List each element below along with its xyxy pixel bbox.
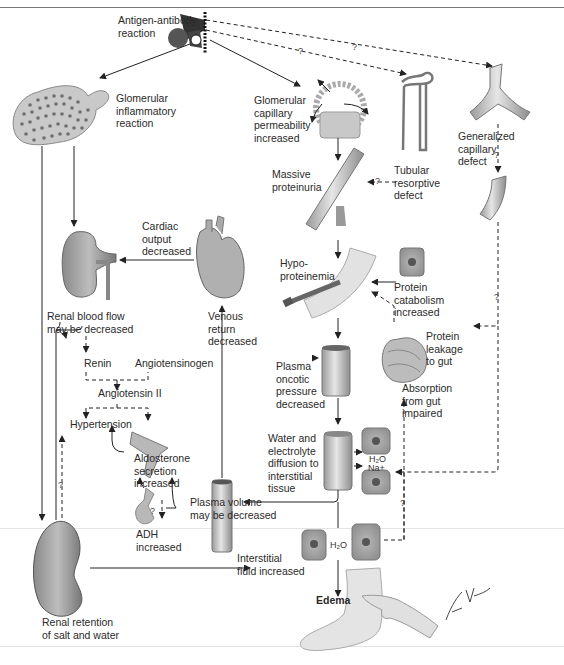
label-venous-return: Venous return decreased	[208, 310, 257, 348]
label-adh: ADH increased	[136, 528, 182, 553]
uncertain-mark: ?	[375, 176, 380, 186]
glomerulus-illustration	[13, 86, 109, 145]
label-protein-catabolism: Protein catabolism increased	[394, 281, 444, 319]
uncertain-mark: ?	[494, 150, 499, 160]
foot-illustration	[300, 568, 382, 651]
vessel-cylinder-illustration	[322, 345, 350, 396]
label-cardiac-output: Cardiac output decreased	[142, 220, 191, 258]
glomerular-capillary-illustration	[312, 80, 368, 138]
kidney-illustration	[33, 521, 81, 616]
uncertain-mark: ?	[58, 480, 63, 490]
uncertain-mark: ?	[298, 46, 303, 56]
label-hypoproteinemia: Hypo- proteinemia	[280, 257, 335, 282]
label-angiotensin-ii: Angiotensin II	[98, 387, 162, 400]
label-plasma-volume: Plasma volume may be decreased	[190, 496, 276, 521]
label-renal-blood-flow: Renal blood flow may be decreased	[47, 310, 133, 335]
brace-connector	[56, 322, 60, 520]
kidney-illustration	[62, 232, 116, 300]
nephron-tubule-illustration	[402, 73, 432, 150]
uncertain-mark: ?	[352, 42, 357, 52]
label-massive-proteinuria: Massive proteinuria	[272, 168, 322, 193]
label-edema: Edema	[316, 594, 350, 607]
label-antigen-antibody: Antigen-antibody reaction	[118, 14, 197, 39]
uncertain-mark: ?	[494, 292, 499, 302]
label-aldosterone: Aldosterone secretion increased	[134, 452, 190, 490]
cell-illustration	[400, 248, 424, 276]
label-hypertension: Hypertension	[70, 418, 132, 431]
label-generalized-capillary: Generalized capillary defect	[458, 130, 515, 168]
label-tubular-defect: Tubular resorptive defect	[394, 164, 440, 202]
label-angiotensinogen: Angiotensinogen	[135, 357, 213, 370]
label-plasma-oncotic: Plasma oncotic pressure decreased	[276, 360, 325, 410]
label-protein-leakage: Protein leakage to gut	[426, 330, 463, 368]
uncertain-mark: ?	[150, 506, 155, 516]
heart-illustration	[197, 216, 245, 298]
intestine-illustration	[382, 338, 427, 383]
label-absorption-gut: Absorption from gut impaired	[402, 382, 452, 420]
signature	[446, 588, 490, 620]
label-glomerular-permeability: Glomerular capillary permeability increa…	[254, 94, 311, 144]
label-interstitial-fluid: Interstitial fluid increased	[237, 552, 305, 577]
label-h2o-lower: H₂O	[330, 540, 347, 551]
label-renal-retention: Renal retention of salt and water	[42, 616, 119, 641]
vessel-cylinder-illustration	[324, 431, 352, 490]
label-renin: Renin	[84, 357, 111, 370]
label-na: Na+	[368, 463, 385, 474]
uncertain-mark: ?	[400, 498, 405, 508]
label-glomerular-inflammatory: Glomerular inflammatory reaction	[116, 92, 176, 130]
label-water-electrolyte: Water and electrolyte diffusion to inter…	[268, 432, 319, 495]
